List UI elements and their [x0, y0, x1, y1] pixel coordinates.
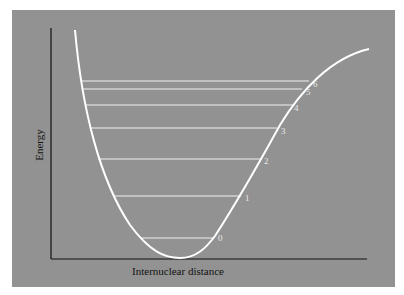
vibrational-levels: [81, 81, 309, 238]
level-label-0: 0: [218, 233, 223, 243]
level-label-4: 4: [294, 103, 299, 113]
level-label-1: 1: [245, 193, 250, 203]
level-label-2: 2: [264, 156, 269, 166]
level-label-5: 5: [306, 87, 311, 97]
level-label-6: 6: [313, 79, 318, 89]
level-label-3: 3: [281, 126, 286, 136]
x-axis-label: Internuclear distance: [132, 265, 224, 277]
potential-energy-diagram: 0 1 2 3 4 5 6 Energy Internuclear distan…: [0, 0, 404, 295]
potential-curve: [75, 30, 369, 258]
y-axis-label: Energy: [33, 129, 45, 161]
